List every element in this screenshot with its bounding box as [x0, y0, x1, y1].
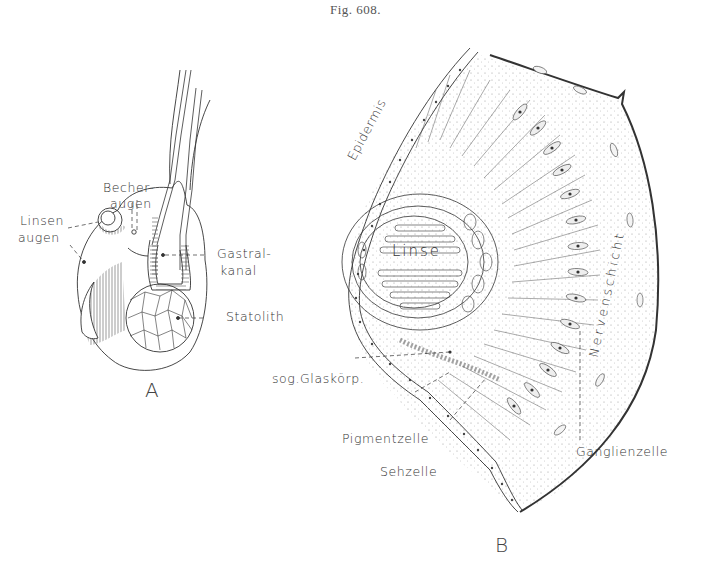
- label-gastralkanal-1: Gastral-: [217, 248, 271, 261]
- label-gastralkanal-2: kanal: [220, 265, 257, 278]
- panel-label-b: B: [495, 533, 508, 557]
- label-linsenaugen-2: augen: [18, 232, 60, 245]
- label-statolith: Statolith: [226, 311, 284, 324]
- label-linsenaugen-1: Linsen: [20, 215, 64, 228]
- label-pigmentzelle: Pigmentzelle: [342, 433, 429, 446]
- label-becheraugen-1: Becher-: [103, 182, 154, 195]
- label-linse: Linse: [392, 244, 441, 259]
- label-sehzelle: Sehzelle: [380, 466, 437, 479]
- panel-label-a: A: [145, 378, 159, 402]
- label-glaskoerper: sog.Glaskörp.: [272, 373, 364, 386]
- label-ganglienzelle: Ganglienzelle: [576, 446, 668, 459]
- panel-a-drawing: [68, 70, 210, 370]
- label-becheraugen-2: augen: [110, 198, 152, 211]
